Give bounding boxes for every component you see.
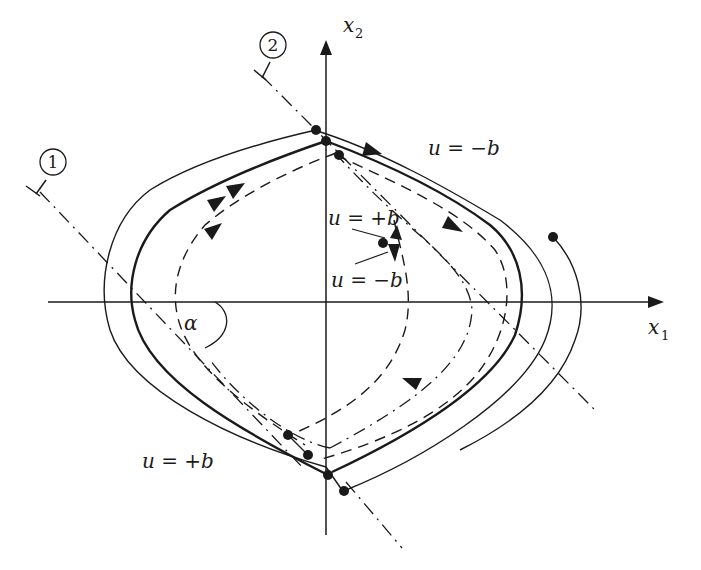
control-label-inner-plus: u = +b xyxy=(328,206,400,230)
svg-text:1: 1 xyxy=(661,328,669,343)
switching-line-2: 2 xyxy=(254,32,595,548)
x2-axis-label: x 2 xyxy=(343,13,363,41)
point xyxy=(339,486,349,496)
start-trajectory xyxy=(460,237,581,450)
point xyxy=(311,125,321,135)
angle-label: α xyxy=(184,311,198,335)
angle-arc xyxy=(205,302,227,348)
arrow-icon xyxy=(204,223,222,240)
dash-dot-trajectory xyxy=(210,153,472,448)
svg-text:2: 2 xyxy=(355,26,363,41)
phase-plane-diagram: 1 2 xyxy=(0,0,701,570)
arrow-icon xyxy=(402,378,422,390)
point xyxy=(334,150,344,160)
arrow-icon xyxy=(362,142,382,156)
control-label-lower-left: u = +b xyxy=(142,449,214,473)
svg-text:x: x xyxy=(648,315,659,339)
point xyxy=(323,470,333,480)
switching-line-2-label: 2 xyxy=(268,35,279,55)
switching-line-1-label: 1 xyxy=(48,152,59,172)
label-leaders xyxy=(288,229,388,455)
dashed-trajectory xyxy=(175,153,507,460)
switching-points xyxy=(283,125,558,496)
x2-axis-arrow-icon xyxy=(320,40,332,55)
arrow-icon xyxy=(226,183,245,199)
x1-axis-arrow-icon xyxy=(648,296,664,308)
control-label-inner-minus: u = −b xyxy=(331,268,403,292)
x1-axis-label: x 1 xyxy=(648,315,669,343)
arrow-icon xyxy=(207,196,226,212)
direction-arrows xyxy=(204,142,463,390)
switching-line-1: 1 xyxy=(26,149,305,470)
svg-text:x: x xyxy=(343,13,354,37)
arrow-icon xyxy=(388,244,400,262)
arrow-icon xyxy=(442,216,463,232)
control-label-upper-right: u = −b xyxy=(428,136,500,160)
point xyxy=(378,238,388,248)
point xyxy=(321,136,331,146)
point xyxy=(548,232,558,242)
